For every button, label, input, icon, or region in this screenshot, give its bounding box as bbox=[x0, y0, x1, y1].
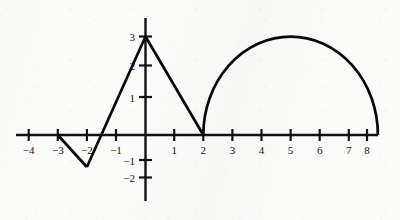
x-tick-label-2: 2 bbox=[201, 144, 207, 156]
x-tick-label-7: 7 bbox=[346, 144, 352, 156]
data-series-piecewise-curve bbox=[58, 37, 378, 168]
graph-figure: −4 −3 −2 −1 1 2 3 4 5 6 7 8 3 2 1 −1 −2 bbox=[0, 0, 400, 220]
y-tick-label--1: −1 bbox=[123, 155, 135, 167]
x-tick-label-4: 4 bbox=[259, 144, 265, 156]
x-tick-label--3: −3 bbox=[52, 144, 64, 156]
x-tick-label-5: 5 bbox=[288, 144, 294, 156]
x-tick-label-1: 1 bbox=[171, 144, 177, 156]
x-tick-label-8: 8 bbox=[364, 144, 370, 156]
y-tick-label-1: 1 bbox=[130, 92, 136, 104]
function-graph-svg: −4 −3 −2 −1 1 2 3 4 5 6 7 8 3 2 1 −1 −2 bbox=[0, 0, 400, 220]
x-tick-label-3: 3 bbox=[230, 144, 236, 156]
axes-group bbox=[16, 18, 378, 201]
x-tick-label--2: −2 bbox=[81, 144, 93, 156]
y-tick-label-3: 3 bbox=[130, 31, 136, 43]
y-tick-label--2: −2 bbox=[123, 172, 135, 184]
x-tick-label-6: 6 bbox=[317, 144, 323, 156]
segment-semicircle bbox=[203, 37, 378, 135]
y-tick-labels: 3 2 1 −1 −2 bbox=[123, 31, 135, 184]
x-tick-label--1: −1 bbox=[110, 144, 122, 156]
segment-falling-line bbox=[146, 37, 204, 136]
x-tick-label--4: −4 bbox=[23, 144, 35, 156]
